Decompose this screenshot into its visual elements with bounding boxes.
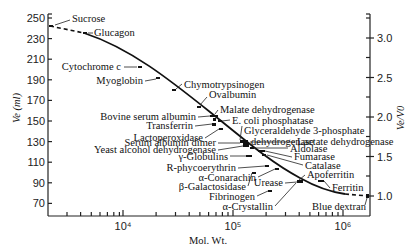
- x-tick-label: 10⁵: [225, 220, 242, 232]
- y-right-tick-label: 2.5: [377, 72, 392, 84]
- point-labels: Sucrose Glucagon Cytochrome c Myoglobin …: [62, 13, 394, 212]
- y-tick-label: 110: [27, 156, 45, 168]
- y-tick-label: 230: [27, 33, 45, 45]
- y-tick-label: 150: [27, 115, 45, 127]
- y-tick-label: 210: [27, 53, 45, 65]
- y-right-tick-label: 1.5: [377, 151, 392, 163]
- curve-dashed-start: [50, 26, 84, 33]
- y-right-axis-label: Ve/V0: [395, 105, 406, 130]
- label-glyceraldehyde-1: Glyceraldehyde 3-phosphate: [244, 125, 365, 136]
- label-blue-dextran: Blue dextran: [312, 201, 367, 212]
- x-ticks: 10⁴ 10⁵ 10⁶: [67, 210, 351, 232]
- label-crystallin: α-Crystallin: [223, 201, 274, 212]
- y-right-tick-label: 3.0: [377, 32, 392, 44]
- label-ferritin: Ferritin: [332, 182, 364, 193]
- calibration-chart: 250 230 210 190 170 150 130 110 90 70 Ve…: [0, 0, 415, 250]
- label-glucagon: Glucagon: [94, 27, 136, 38]
- label-apoferritin: Apoferritin: [307, 169, 355, 180]
- label-transferrin: Transferrin: [146, 120, 194, 131]
- y-left-axis-label: Ve (ml): [11, 92, 23, 123]
- label-globulins: γ-Globulins: [177, 151, 228, 162]
- label-myoglobin: Myoglobin: [96, 75, 143, 86]
- y-tick-label: 90: [33, 177, 45, 189]
- y-right-tick-label: 1.0: [377, 190, 392, 202]
- y-right-tick-label: 2.0: [377, 111, 392, 123]
- x-tick-label: 10⁶: [335, 220, 352, 232]
- x-tick-label: 10⁴: [115, 220, 132, 232]
- y-tick-label: 170: [27, 94, 45, 106]
- label-ovalbumin: Ovalbumin: [209, 89, 257, 100]
- curve-dashed-end: [345, 194, 368, 196]
- label-sucrose: Sucrose: [72, 13, 106, 24]
- y-tick-label: 190: [27, 74, 45, 86]
- y-tick-label: 250: [27, 12, 45, 24]
- y-tick-label: 130: [27, 136, 45, 148]
- x-axis-label: Mol. Wt.: [189, 235, 227, 246]
- y-tick-label: 70: [33, 197, 45, 209]
- label-cytochrome: Cytochrome c: [62, 61, 122, 72]
- label-malate: Malate dehydrogenase: [220, 104, 315, 115]
- label-urease: Urease: [254, 177, 283, 188]
